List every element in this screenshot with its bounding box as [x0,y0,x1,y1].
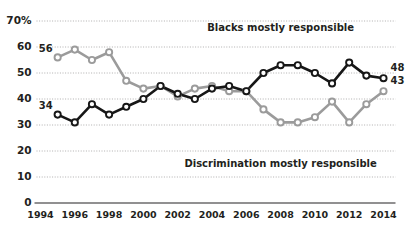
data-point [380,75,386,81]
start-value-label: 56 [39,43,53,54]
data-point [295,119,301,125]
data-point [295,62,301,68]
data-point [89,101,95,107]
x-tick-label: 2012 [336,209,362,220]
data-point [175,91,181,97]
y-tick-label: 30 [17,118,32,130]
y-tick-label: 20 [17,144,32,156]
data-point [346,60,352,66]
data-point [55,112,61,118]
data-point [123,78,129,84]
data-point [140,96,146,102]
data-point [209,86,215,92]
data-point [192,86,198,92]
data-point [380,88,386,94]
data-point [89,57,95,63]
x-tick-label: 2014 [370,209,397,220]
x-axis-labels-group: 1994199619982000200220042006200820102012… [27,209,397,220]
data-point [192,96,198,102]
data-point [55,54,61,60]
data-point [363,73,369,79]
chart-container: 70%6050403020100 19941996199820002002200… [0,0,409,238]
y-axis-labels-group: 70%6050403020100 [6,14,32,208]
line-chart: 70%6050403020100 19941996199820002002200… [0,0,409,238]
data-point [106,112,112,118]
x-tick-label: 2000 [130,209,157,220]
data-point [123,104,129,110]
series-annotation: Discrimination mostly responsible [184,158,377,169]
data-point [140,86,146,92]
start-value-label: 34 [39,100,53,111]
y-tick-label: 10 [17,170,32,182]
data-point [312,70,318,76]
data-point [106,49,112,55]
data-point [278,119,284,125]
end-value-label: 48 [391,62,405,73]
data-point [278,62,284,68]
data-point [260,106,266,112]
data-point [157,83,163,89]
data-point [260,70,266,76]
series-annotations-group: Blacks mostly responsibleDiscrimination … [184,22,377,168]
data-point [226,83,232,89]
y-tick-label: 70% [6,14,32,26]
end-value-label: 43 [391,75,405,86]
x-tick-label: 1996 [62,209,89,220]
x-tick-label: 1998 [96,209,123,220]
data-point [363,101,369,107]
y-tick-label: 0 [24,196,31,208]
data-point [72,47,78,53]
data-point [329,99,335,105]
series-annotation: Blacks mostly responsible [207,22,354,33]
data-point [346,119,352,125]
y-tick-label: 60 [17,40,32,52]
data-point [243,88,249,94]
x-tick-label: 2004 [199,209,226,220]
y-tick-label: 50 [17,66,32,78]
x-tick-label: 2002 [164,209,190,220]
x-tick-label: 1994 [27,209,54,220]
data-point [312,114,318,120]
data-point [72,119,78,125]
data-point [329,80,335,86]
x-tick-label: 2006 [233,209,260,220]
x-tick-label: 2008 [267,209,294,220]
x-tick-label: 2010 [302,209,329,220]
y-tick-label: 40 [17,92,32,104]
